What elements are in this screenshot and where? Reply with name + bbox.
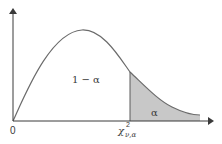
- density-curve: [13, 30, 200, 121]
- critical-value-symbol: χ: [117, 125, 125, 136]
- origin-label: 0: [10, 125, 16, 136]
- critical-value-label: χ 2 ν,α: [117, 121, 136, 139]
- critical-value-superscript: 2: [126, 121, 130, 128]
- acceptance-region-label: 1 − α: [72, 74, 100, 85]
- y-axis-arrow-icon: [9, 8, 17, 14]
- rejection-region-label: α: [151, 107, 158, 118]
- critical-value-subscript: ν,α: [125, 131, 136, 139]
- chi-square-diagram: 0 1 − α α χ 2 ν,α: [0, 0, 222, 144]
- x-axis-arrow-icon: [208, 117, 214, 125]
